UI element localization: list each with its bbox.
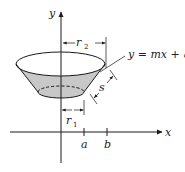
x-axis-label: x — [165, 126, 172, 139]
r1-dimension: r 1 — [62, 100, 84, 129]
tick-label-b: b — [104, 138, 111, 151]
generating-line: y = mx + q — [100, 48, 185, 72]
r2-subscript: 2 — [84, 43, 88, 51]
r1-label: r — [66, 114, 72, 127]
r1-subscript: 1 — [73, 121, 77, 129]
s-label: s — [99, 81, 105, 94]
x-axis: x a b — [10, 126, 172, 151]
line-equation-label: y = mx + q — [127, 48, 185, 61]
y-axis-label: y — [48, 7, 56, 20]
frustum-diagram: y x a b r 2 r 1 y = mx + q s — [0, 0, 185, 172]
r2-label: r — [76, 36, 82, 49]
tick-label-a: a — [81, 138, 88, 151]
